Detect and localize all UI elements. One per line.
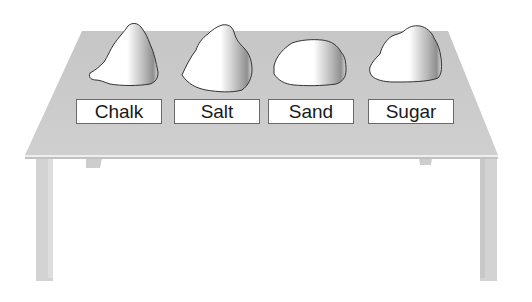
- table-edge: [25, 157, 498, 159]
- label-sand: Sand: [268, 99, 354, 124]
- front-right-leg-shade: [480, 158, 485, 278]
- label-salt: Salt: [174, 99, 260, 124]
- back-right-leg: [419, 158, 432, 165]
- back-left-leg: [86, 158, 102, 168]
- front-left-leg-shade: [48, 158, 53, 278]
- label-sugar: Sugar: [368, 99, 454, 124]
- table-scene: [0, 0, 532, 302]
- table-edge-highlight: [25, 155, 498, 157]
- label-chalk: Chalk: [76, 99, 162, 124]
- table-legs: [36, 158, 497, 281]
